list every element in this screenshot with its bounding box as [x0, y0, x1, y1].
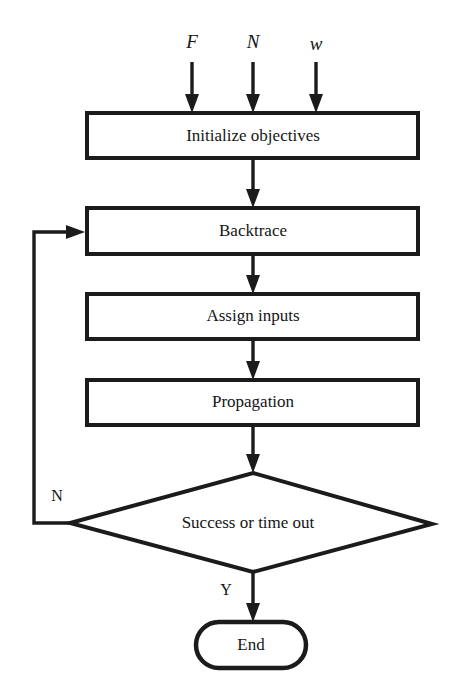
edge-label-yes: Y	[220, 581, 232, 598]
connector-decision-no-to-backtrace	[34, 225, 85, 523]
node-label-backtrace: Backtrace	[219, 221, 287, 240]
connector-decision-yes-to-end	[246, 572, 260, 622]
flowchart-canvas: Initialize objectives Backtrace Assign i…	[0, 0, 462, 693]
node-label-initialize-objectives: Initialize objectives	[186, 126, 320, 145]
node-label-assign-inputs: Assign inputs	[206, 306, 299, 325]
input-arrow-f	[185, 62, 199, 113]
input-arrow-w	[309, 62, 323, 113]
node-label-end: End	[237, 635, 265, 654]
connector-assign-to-propagation	[246, 339, 260, 380]
connector-initialize-to-backtrace	[246, 158, 260, 208]
connector-propagation-to-decision	[246, 425, 260, 473]
connector-backtrace-to-assign	[246, 254, 260, 294]
edge-label-no: N	[51, 487, 63, 504]
node-label-propagation: Propagation	[212, 392, 295, 411]
input-label-f: F	[185, 31, 198, 52]
node-label-success-or-timeout: Success or time out	[182, 513, 315, 532]
input-arrow-n	[246, 62, 260, 113]
flowchart-diagram: Initialize objectives Backtrace Assign i…	[0, 0, 462, 693]
input-label-w: w	[310, 33, 323, 54]
input-label-n: N	[246, 31, 261, 52]
